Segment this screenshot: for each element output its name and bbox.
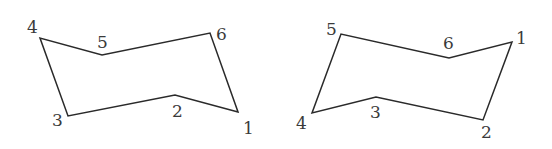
diagram-canvas: 123456 123456: [0, 0, 552, 149]
vertex-label-5: 5: [97, 32, 108, 52]
vertex-label-4: 4: [27, 17, 38, 37]
ring-outline: [312, 34, 512, 120]
vertex-label-6: 6: [216, 24, 227, 44]
vertex-label-3: 3: [370, 102, 381, 122]
chair-conformation-left: 123456: [27, 17, 254, 138]
chair-conformation-right: 123456: [296, 19, 527, 142]
vertex-label-6: 6: [443, 33, 454, 53]
vertex-label-5: 5: [326, 19, 337, 39]
vertex-label-1: 1: [243, 118, 254, 138]
vertex-label-2: 2: [481, 122, 492, 142]
vertex-label-4: 4: [296, 113, 307, 133]
vertex-label-1: 1: [516, 28, 527, 48]
ring-outline: [40, 33, 238, 116]
vertex-label-2: 2: [172, 101, 183, 121]
vertex-label-3: 3: [52, 110, 63, 130]
